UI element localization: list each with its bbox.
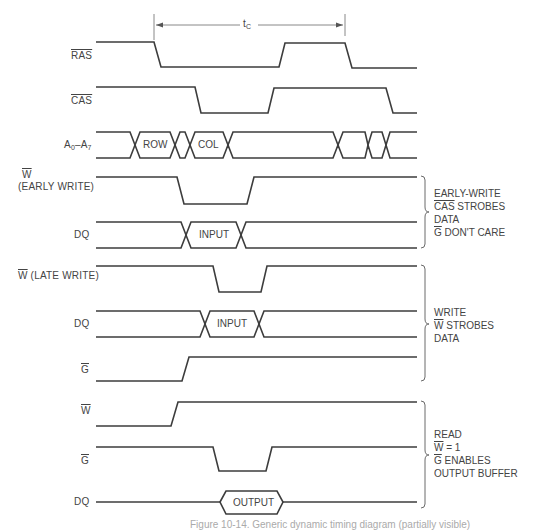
label-address: A0–A7 (64, 139, 92, 151)
dq-read-output-label: OUTPUT (233, 497, 274, 508)
dq-late-waveform (96, 311, 417, 337)
note-read-g: G (434, 455, 442, 466)
tc-subscript: C (246, 23, 251, 30)
label-dq-late: DQ (74, 318, 89, 329)
w-late-waveform (96, 266, 417, 292)
addr-col-label: COL (198, 139, 219, 150)
label-ras: RAS (71, 50, 92, 61)
note-early-cas: CAS (434, 201, 455, 212)
label-w-read: W (81, 405, 91, 416)
label-g-late: G (81, 364, 89, 375)
g-late-waveform (96, 357, 417, 381)
label-dq-early: DQ (74, 229, 89, 240)
note-late-strobes: STROBES (443, 320, 494, 331)
label-cas: CAS (71, 95, 92, 106)
note-late-line2: W STROBES (434, 319, 494, 332)
note-late-line3: DATA (434, 332, 494, 345)
dq-early-input-label: INPUT (199, 229, 229, 240)
cas-waveform (96, 87, 417, 113)
note-early-line1: EARLY-WRITE (434, 187, 505, 200)
addr-a2: A (81, 139, 88, 150)
note-early-line2: CAS STROBES (434, 200, 505, 213)
note-read-line2: W = 1 (434, 441, 518, 454)
ras-waveform (96, 42, 417, 68)
note-read-eq1: = 1 (443, 442, 460, 453)
label-w-early-sub: (EARLY WRITE) (18, 181, 94, 192)
g-read-waveform (96, 447, 417, 471)
note-read: READ W = 1 G ENABLES OUTPUT BUFFER (434, 428, 518, 480)
bracket-early-write (421, 176, 429, 248)
note-early-write: EARLY-WRITE CAS STROBES DATA G DON'T CAR… (434, 187, 505, 239)
note-early-dontcare: DON'T CARE (442, 227, 505, 238)
note-early-line3: DATA (434, 213, 505, 226)
note-early-strobes: STROBES (455, 201, 506, 212)
label-g-read: G (81, 455, 89, 466)
note-early-line4: G DON'T CARE (434, 226, 505, 239)
note-read-line4: OUTPUT BUFFER (434, 467, 518, 480)
note-late-write: WRITE W STROBES DATA (434, 306, 494, 345)
figure-caption: Figure 10-14. Generic dynamic timing dia… (190, 519, 470, 530)
w-read-waveform (96, 402, 417, 426)
addr-sub7: 7 (88, 144, 92, 151)
tc-label: tC (243, 18, 251, 30)
addr-row-label: ROW (143, 139, 167, 150)
w-late-suffix: (LATE WRITE) (28, 270, 99, 281)
w-early-waveform (96, 177, 417, 204)
dq-late-input-label: INPUT (217, 318, 247, 329)
label-w-early: W (22, 169, 32, 180)
note-read-enables: ENABLES (442, 455, 491, 466)
bracket-late-write (421, 265, 429, 381)
addr-a: A (64, 139, 71, 150)
label-dq-read: DQ (74, 496, 89, 507)
note-read-line3: G ENABLES (434, 454, 518, 467)
note-late-line1: WRITE (434, 306, 494, 319)
dq-early-waveform (96, 222, 417, 248)
label-w-late: W (LATE WRITE) (18, 270, 99, 281)
w-late-w: W (18, 270, 28, 281)
note-read-line1: READ (434, 428, 518, 441)
note-early-g: G (434, 227, 442, 238)
bracket-read (421, 401, 429, 508)
